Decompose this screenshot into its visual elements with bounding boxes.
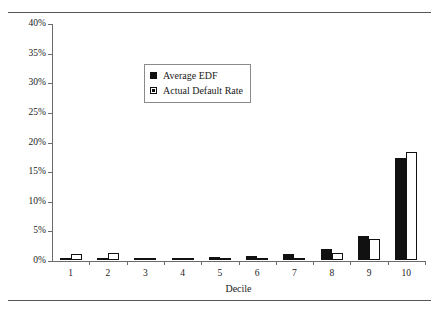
x-axis-tick [239, 261, 240, 265]
bar [369, 239, 380, 260]
bar [257, 258, 268, 260]
x-axis-tick [127, 261, 128, 265]
x-axis-tick [164, 261, 165, 265]
y-axis-tick-label: 0% [33, 256, 46, 266]
x-axis-tick [388, 261, 389, 265]
chart-legend: Average EDF Actual Default Rate [144, 64, 251, 103]
y-axis-tick [48, 202, 52, 203]
bar-group [358, 23, 380, 260]
outlined-square-marker-icon [150, 87, 157, 94]
plot-area: 0%5%10%15%20%25%30%35%40% 12345678910 [52, 24, 425, 261]
x-axis-tick [89, 261, 90, 265]
legend-label: Actual Default Rate [163, 86, 243, 96]
x-axis-tick [350, 261, 351, 265]
x-axis-tick-label: 4 [180, 269, 185, 279]
x-axis-tick-label: 5 [217, 269, 222, 279]
y-axis-tick [48, 83, 52, 84]
bar-group [395, 23, 417, 260]
y-axis-tick-label: 40% [29, 19, 46, 29]
bar [321, 249, 332, 260]
x-axis-tick-label: 6 [255, 269, 260, 279]
chart-figure: 0%5%10%15%20%25%30%35%40% 12345678910 De… [0, 0, 439, 314]
bottom-divider-rule [8, 300, 431, 301]
bar [172, 258, 183, 260]
bar-group [172, 23, 194, 260]
y-axis-tick [48, 24, 52, 25]
bar [332, 253, 343, 260]
x-axis-tick [201, 261, 202, 265]
bar-group [246, 23, 268, 260]
y-axis-tick [48, 54, 52, 55]
y-axis-tick [48, 143, 52, 144]
legend-item-average-edf: Average EDF [150, 68, 243, 83]
legend-item-actual-default-rate: Actual Default Rate [150, 83, 243, 98]
legend-label: Average EDF [163, 71, 218, 81]
x-axis-tick-label: 10 [402, 269, 412, 279]
top-divider-rule [8, 12, 431, 13]
x-axis-tick [313, 261, 314, 265]
y-axis-line [52, 24, 53, 262]
bar [97, 258, 108, 260]
y-axis-tick-label: 35% [29, 49, 46, 59]
y-axis-tick-label: 15% [29, 167, 46, 177]
bar [294, 258, 305, 260]
bar-group [60, 23, 82, 260]
bar-group [97, 23, 119, 260]
y-axis-tick [48, 113, 52, 114]
bar [71, 254, 82, 260]
bar [183, 258, 194, 260]
x-axis-tick [425, 261, 426, 265]
y-axis-tick-label: 20% [29, 138, 46, 148]
bar [406, 152, 417, 260]
bar [209, 257, 220, 260]
filled-square-marker-icon [150, 72, 157, 79]
x-axis-title: Decile [52, 283, 425, 294]
x-axis-tick-label: 8 [329, 269, 334, 279]
bar [246, 256, 257, 260]
bar [145, 258, 156, 260]
bar [108, 253, 119, 260]
x-axis-tick-label: 1 [68, 269, 73, 279]
bar-group [134, 23, 156, 260]
bar [395, 158, 406, 261]
bar [220, 258, 231, 260]
bar [283, 254, 294, 260]
y-axis-tick-label: 25% [29, 108, 46, 118]
bar [134, 258, 145, 260]
bar-group [283, 23, 305, 260]
y-axis-tick [48, 172, 52, 173]
y-axis-tick-label: 30% [29, 79, 46, 89]
bar-group [209, 23, 231, 260]
y-axis-tick [48, 231, 52, 232]
x-axis-tick [276, 261, 277, 265]
y-axis-tick [48, 261, 52, 262]
bar-group [321, 23, 343, 260]
x-axis-tick-label: 2 [106, 269, 111, 279]
y-axis-tick-label: 10% [29, 197, 46, 207]
x-axis-tick-label: 3 [143, 269, 148, 279]
bar [60, 258, 71, 260]
bar [358, 236, 369, 260]
x-axis-tick-label: 7 [292, 269, 297, 279]
x-axis-tick-label: 9 [367, 269, 372, 279]
y-axis-tick-label: 5% [33, 227, 46, 237]
